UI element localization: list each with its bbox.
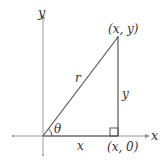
angle-arc-icon xyxy=(49,129,53,136)
adjacent-label: x xyxy=(77,139,84,153)
y-axis-label: y xyxy=(37,5,46,20)
foot-label: (x, 0) xyxy=(107,140,139,154)
polar-triangle-diagram: y x (x, y) r y θ x (x, 0) xyxy=(0,0,162,165)
point-label: (x, y) xyxy=(108,22,139,36)
x-axis-arrow-right-icon xyxy=(145,134,150,138)
angle-label: θ xyxy=(54,122,62,136)
x-axis-label: x xyxy=(151,128,159,143)
x-axis-left-end-icon xyxy=(12,135,14,137)
y-axis-bottom-end-icon xyxy=(42,154,44,156)
point-marker-icon xyxy=(117,36,119,38)
right-triangle xyxy=(43,36,119,136)
opposite-label: y xyxy=(121,87,129,101)
hypotenuse-label: r xyxy=(75,71,82,85)
right-angle-marker-icon xyxy=(110,128,118,136)
